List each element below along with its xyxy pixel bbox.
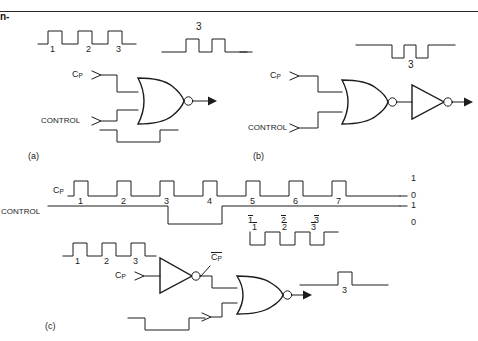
timing-cp-level-high: 1 xyxy=(411,174,416,183)
timing-control-row-label: CONTROL xyxy=(1,208,40,216)
timing-clock-number-3: 3 xyxy=(164,197,169,206)
figure-background xyxy=(0,0,478,341)
timing-control-level-low: 0 xyxy=(411,218,416,227)
panel-a-caption: (a) xyxy=(28,152,39,161)
page-corner-fragment: n- xyxy=(0,11,9,22)
timing-cp-level-low: 0 xyxy=(411,191,416,200)
panel-c-cp-input-label: CP xyxy=(115,271,126,281)
panel-a-output-waveform-label: 3 xyxy=(196,22,202,32)
timing-control-level-high: 1 xyxy=(411,201,416,210)
panel-c-inverted-pulse-1: 1 xyxy=(252,222,257,232)
panel-a-pulse-label-3: 3 xyxy=(116,45,121,54)
timing-clock-number-4: 4 xyxy=(207,197,212,206)
timing-cp-row-label: CP xyxy=(53,186,64,196)
panel-c-inverted-pulse-2: 2 xyxy=(282,222,287,232)
timing-clock-number-6: 6 xyxy=(293,197,298,206)
panel-b-caption: (b) xyxy=(253,152,264,161)
panel-a-pulse-label-2: 2 xyxy=(86,45,91,54)
panel-a-pulse-label-1: 1 xyxy=(50,45,55,54)
timing-clock-number-2: 2 xyxy=(121,197,126,206)
panel-c-pulse-label-3: 3 xyxy=(133,257,138,266)
panel-c-inverted-pulse-3: 3 xyxy=(311,222,316,232)
timing-clock-number-7: 7 xyxy=(336,197,341,206)
logic-timing-figure xyxy=(0,0,478,341)
panel-b-cp-input-label: CP xyxy=(270,71,281,81)
timing-clock-number-1: 1 xyxy=(78,197,83,206)
panel-b-output-waveform-label: 3 xyxy=(408,60,414,70)
panel-c-pulse-label-2: 2 xyxy=(104,257,109,266)
panel-c-output-waveform-label: 3 xyxy=(342,286,347,295)
panel-a-cp-input-label: CP xyxy=(72,70,83,80)
panel-c-caption: (c) xyxy=(45,322,56,331)
panel-c-pulse-label-1: 1 xyxy=(75,257,80,266)
panel-a-control-input-label: CONTROL xyxy=(41,117,80,125)
panel-b-control-input-label: CONTROL xyxy=(248,124,287,132)
timing-clock-number-5: 5 xyxy=(250,197,255,206)
panel-c-cpbar-label: CP xyxy=(211,252,222,263)
